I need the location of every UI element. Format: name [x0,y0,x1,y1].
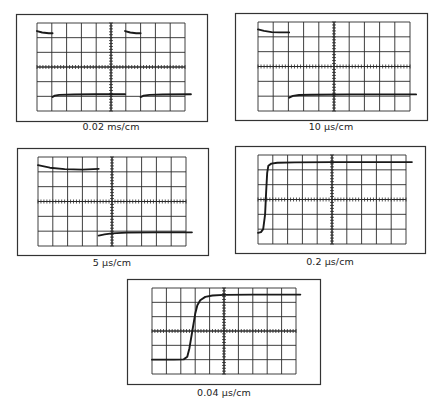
center-axis-ticks [258,22,410,111]
center-axis-ticks [258,155,406,244]
caption-p4: 0.2 µs/cm [280,256,380,267]
scope-panel-p4 [236,147,426,254]
scope-panel-p5 [128,280,321,385]
trace-high [125,31,141,33]
caption-p1: 0.02 ms/cm [61,121,161,132]
scope-panel-p2 [236,14,428,121]
trace-high [38,165,99,169]
center-axis-ticks [152,288,296,374]
caption-p2: 10 µs/cm [281,121,381,132]
trace-high [37,31,53,33]
center-axis-ticks [37,23,185,111]
oscilloscope-figure [0,0,441,411]
trace-low [99,232,192,235]
caption-p5: 0.04 µs/cm [174,387,274,398]
trace-step [152,295,300,360]
caption-p3: 5 µs/cm [62,257,162,268]
scope-panel-p3 [18,149,209,256]
scope-panel-p1 [17,15,208,122]
